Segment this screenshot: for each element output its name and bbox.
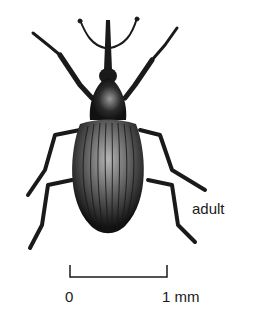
elytra [72,120,144,234]
weevil-illustration [0,0,256,324]
stage-label: adult [192,200,225,217]
scale-bar [70,265,167,277]
head-pronotum [90,68,127,120]
rostrum [104,20,112,70]
scale-start-label: 0 [65,288,73,305]
scale-end-label: 1 mm [162,288,200,305]
